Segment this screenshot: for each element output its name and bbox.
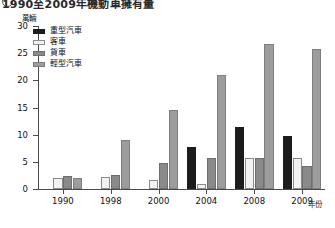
legend-swatch xyxy=(33,51,45,56)
bar xyxy=(101,177,110,189)
bar-group xyxy=(91,26,130,189)
chart-legend: 重型汽車客車貨車輕型汽車 xyxy=(33,26,82,70)
y-tick-label: 10 xyxy=(8,130,28,140)
legend-item: 客車 xyxy=(33,37,82,47)
bar xyxy=(312,49,321,189)
x-axis-title: 年份 xyxy=(308,198,322,209)
bar xyxy=(302,166,311,189)
legend-label: 客車 xyxy=(50,37,66,47)
legend-swatch xyxy=(33,62,45,67)
bar-group xyxy=(187,26,226,189)
bar xyxy=(73,178,82,189)
legend-item: 貨車 xyxy=(33,48,82,58)
bar xyxy=(121,140,130,189)
x-tick-label: 1990 xyxy=(43,196,83,206)
x-tick-label: 2000 xyxy=(139,196,179,206)
bar xyxy=(159,163,168,189)
bar xyxy=(149,180,158,189)
x-tick-mark xyxy=(302,190,303,194)
bar-group xyxy=(139,26,178,189)
chart-title: 1990至2009年機動車擁有量 xyxy=(2,0,154,9)
y-tick-label: 0 xyxy=(8,184,28,194)
chart-figure: 1990至2009年機動車擁有量 萬輛 051015202530 1990199… xyxy=(0,0,335,228)
y-tick-label: 5 xyxy=(8,157,28,167)
bar xyxy=(235,127,244,189)
bar xyxy=(187,147,196,189)
x-axis-line xyxy=(38,189,325,190)
bar xyxy=(53,178,62,189)
x-tick-mark xyxy=(206,190,207,194)
bar xyxy=(197,184,206,189)
x-tick-label: 1998 xyxy=(91,196,131,206)
legend-label: 貨車 xyxy=(50,48,66,58)
bar xyxy=(245,158,254,189)
legend-label: 輕型汽車 xyxy=(50,59,82,69)
bar xyxy=(293,158,302,189)
y-tick-label: 25 xyxy=(8,48,28,58)
legend-swatch xyxy=(33,29,45,34)
bar-group xyxy=(283,26,322,189)
bar xyxy=(169,110,178,189)
legend-swatch xyxy=(33,40,45,45)
bar xyxy=(207,158,216,190)
y-tick-mark xyxy=(33,189,38,190)
y-tick-label: 20 xyxy=(8,75,28,85)
bar xyxy=(217,75,226,189)
x-tick-mark xyxy=(254,190,255,194)
x-tick-label: 2004 xyxy=(186,196,226,206)
x-tick-label: 2008 xyxy=(234,196,274,206)
bar-group xyxy=(235,26,274,189)
legend-item: 重型汽車 xyxy=(33,26,82,36)
bar xyxy=(264,44,273,189)
bar xyxy=(255,158,264,189)
bar xyxy=(63,176,72,189)
x-tick-mark xyxy=(159,190,160,194)
legend-item: 輕型汽車 xyxy=(33,59,82,69)
chart-title-strip: 1990至2009年機動車擁有量 xyxy=(0,0,335,9)
x-tick-mark xyxy=(111,190,112,194)
legend-label: 重型汽車 xyxy=(50,26,82,36)
bar xyxy=(283,136,292,189)
y-tick-label: 30 xyxy=(8,21,28,31)
bar xyxy=(111,175,120,189)
x-tick-mark xyxy=(63,190,64,194)
y-tick-label: 15 xyxy=(8,103,28,113)
